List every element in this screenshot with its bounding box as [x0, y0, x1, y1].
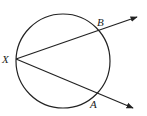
- label-b: B: [97, 16, 104, 28]
- circle: [16, 14, 110, 108]
- geometry-diagram: X B A: [0, 0, 147, 116]
- label-x: X: [1, 53, 10, 65]
- ray-xa: [16, 59, 133, 108]
- label-a: A: [89, 98, 97, 110]
